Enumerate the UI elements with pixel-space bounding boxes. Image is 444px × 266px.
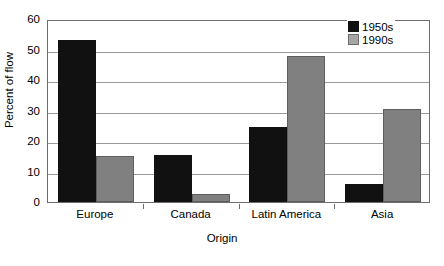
legend-item: 1950s [348,20,393,33]
x-axis-tick-mark [143,204,144,209]
plot-area [47,20,430,203]
bar [58,40,96,202]
legend-item: 1990s [348,33,393,46]
bar [287,56,325,202]
gridline [48,82,429,83]
x-axis-tick-label: Canada [170,208,210,220]
x-axis-tick-mark [239,204,240,209]
y-axis-tick-label: 20 [27,136,40,148]
x-axis-tick-label: Europe [76,208,113,220]
x-axis-tick-mark [334,204,335,209]
gridline [48,113,429,114]
y-axis-tick-label: 50 [27,45,40,57]
legend-swatch-icon [348,21,359,32]
gridline [48,52,429,53]
gridline [48,143,429,144]
x-axis-title: Origin [0,232,444,244]
bar [154,155,192,202]
bar [96,156,134,202]
y-axis-tick-label: 60 [27,14,40,26]
y-axis-tick-label: 40 [27,75,40,87]
bar [345,184,383,202]
y-axis-tick-label: 0 [34,197,40,209]
y-axis-tick-label: 10 [27,167,40,179]
bar [383,109,421,202]
y-axis-title: Percent of flow [3,30,15,150]
legend-swatch-icon [348,34,359,45]
bar [192,194,230,202]
x-axis-tick-label: Asia [371,208,393,220]
bar [249,127,287,202]
legend: 1950s1990s [347,19,395,47]
legend-label: 1950s [362,21,393,33]
x-axis-tick-label: Latin America [252,208,322,220]
legend-label: 1990s [362,34,393,46]
bar-chart: 0102030405060 Percent of flow EuropeCana… [0,0,444,266]
y-axis-tick-label: 30 [27,106,40,118]
